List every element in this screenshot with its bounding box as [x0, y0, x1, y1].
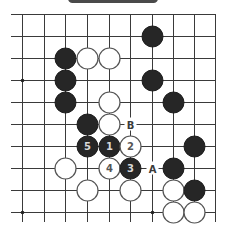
white-stone [184, 202, 205, 223]
move-number: 5 [84, 141, 91, 152]
white-stone [99, 114, 120, 135]
move-number: 2 [127, 141, 134, 152]
black-stone [184, 136, 205, 157]
black-stone-move-3: 3 [120, 158, 141, 179]
black-stone-move-1: 1 [99, 136, 120, 157]
black-stone [184, 180, 205, 201]
move-number: 3 [127, 163, 134, 174]
move-number: 4 [106, 163, 113, 174]
black-stone [55, 70, 76, 91]
white-stone [120, 180, 141, 201]
white-stone-move-2: 2 [120, 136, 141, 157]
black-stone [77, 114, 98, 135]
white-stone [77, 48, 98, 69]
black-stone-move-5: 5 [77, 136, 98, 157]
star-point [151, 211, 155, 215]
black-stone [55, 92, 76, 113]
label-a: A [147, 162, 159, 175]
star-point [21, 79, 25, 83]
white-stone [77, 180, 98, 201]
white-stone [163, 202, 184, 223]
label-text: A [149, 164, 157, 175]
star-point [21, 211, 25, 215]
label-b: B [125, 118, 137, 131]
black-stone [163, 158, 184, 179]
white-stone-move-4: 4 [99, 158, 120, 179]
black-stone [163, 92, 184, 113]
black-stone [55, 48, 76, 69]
black-stone [142, 70, 163, 91]
black-stone [142, 26, 163, 47]
move-number: 1 [106, 141, 113, 152]
white-stone [99, 92, 120, 113]
label-text: B [127, 120, 135, 131]
go-board-diagram: BA 51243 [0, 0, 225, 229]
white-stone [55, 158, 76, 179]
white-stone [99, 48, 120, 69]
white-stone [163, 180, 184, 201]
